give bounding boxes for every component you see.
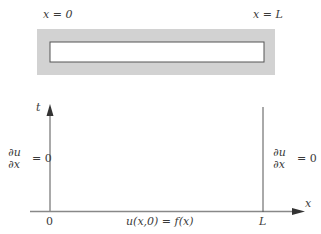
right-bc-rhs: = 0 (297, 153, 317, 165)
initial-condition: u(x,0) = f(x) (126, 215, 193, 228)
left-bc-denominator: ∂x (8, 159, 21, 171)
left-boundary-condition: ∂u ∂x = 0 (8, 147, 21, 171)
x-axis-label: x (305, 197, 311, 210)
rod-rect (50, 42, 264, 62)
rod-left-label: x = 0 (43, 8, 72, 21)
L-label: L (259, 215, 266, 228)
diagram-canvas (0, 0, 321, 234)
right-bc-denominator: ∂x (273, 159, 286, 171)
t-axis-arrow-icon (47, 104, 54, 116)
origin-label: 0 (46, 215, 53, 228)
right-boundary-condition: ∂u ∂x = 0 (273, 147, 286, 171)
x-equals-0-text: x = 0 (43, 8, 72, 21)
rod-right-label: x = L (253, 8, 283, 21)
x-equals-L-text: x = L (253, 8, 283, 21)
t-axis-label: t (36, 101, 40, 114)
x-axis-arrow-icon (292, 208, 305, 215)
left-bc-rhs: = 0 (32, 153, 52, 165)
